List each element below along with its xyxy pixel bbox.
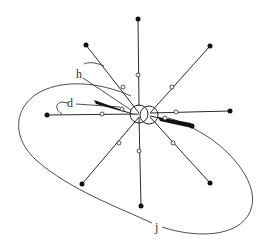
mid-node-lower-right [171,141,175,145]
end-node-upper-left [84,43,89,48]
spokes [47,19,230,206]
spoke-left [47,114,139,115]
spoke-bottom [139,117,141,206]
label-d: d [67,96,73,110]
end-node-left [45,113,50,118]
spoke-top [138,19,139,106]
end-node-lower-right [208,181,213,186]
hub-circle-right [140,106,158,124]
mid-node-right [174,110,178,114]
label-j: j [154,220,158,234]
label-h: h [76,67,82,81]
mid-node-top [136,73,140,77]
spoke-right [150,111,230,113]
spoke-upper-right [150,46,210,113]
mid-node-left-inner [120,107,124,111]
end-node-right-short [190,124,195,129]
spoke-upper-left [86,45,139,113]
loop-j [19,84,253,234]
spoke-lower-right [150,117,210,183]
spoke-lower-left [82,117,139,184]
diagram-figure: h d j [0,0,271,252]
end-node-top [136,17,141,22]
end-node-right [228,109,233,114]
mid-node-upper-right [170,85,174,89]
mid-node-bottom [137,149,141,153]
diagram-canvas: h d j [0,0,271,252]
mid-node-left [100,112,104,116]
mid-node-upper-left [121,85,125,89]
end-node-bottom [139,204,144,209]
end-node-lower-left [80,182,85,187]
mid-node-lower-left [117,141,121,145]
end-node-upper-right [208,44,213,49]
mid-node-right-short [163,116,167,120]
